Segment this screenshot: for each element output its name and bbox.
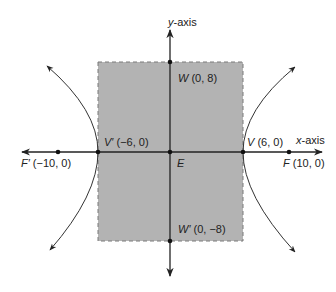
hyperbola-diagram: y-axis x-axis W (0, 8) W′ (0, −8) V (6, … — [0, 0, 336, 292]
label-f: F (10, 0) — [283, 157, 325, 169]
label-f-prime: F′ (−10, 0) — [21, 157, 71, 169]
point-w — [168, 60, 173, 65]
point-f — [287, 150, 292, 155]
label-w-prime: W′ (0, −8) — [178, 223, 226, 235]
label-v: V (6, 0) — [247, 136, 283, 148]
label-w: W (0, 8) — [178, 72, 217, 84]
label-v-prime: V′ (−6, 0) — [104, 136, 149, 148]
diagram-svg: y-axis x-axis W (0, 8) W′ (0, −8) V (6, … — [0, 0, 336, 292]
point-e — [168, 150, 173, 155]
label-center-e: E — [177, 157, 185, 169]
point-f-prime — [56, 150, 61, 155]
y-axis-label: y-axis — [167, 16, 197, 28]
point-v — [241, 150, 246, 155]
point-w-prime — [168, 239, 173, 244]
point-v-prime — [96, 150, 101, 155]
x-axis-label: x-axis — [295, 134, 325, 146]
